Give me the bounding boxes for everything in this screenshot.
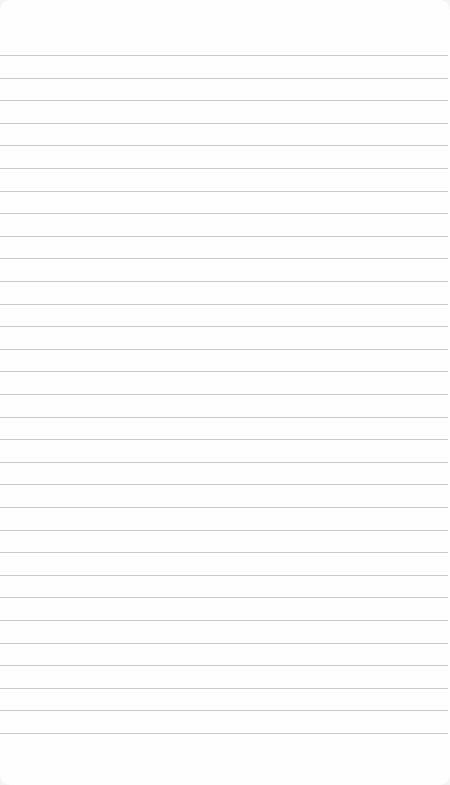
ruled-line bbox=[0, 733, 448, 734]
ruled-line bbox=[0, 643, 448, 644]
ruled-line bbox=[0, 575, 448, 576]
ruled-line bbox=[0, 100, 448, 101]
ruled-line bbox=[0, 688, 448, 689]
ruled-line bbox=[0, 552, 448, 553]
ruled-line bbox=[0, 417, 448, 418]
ruled-line bbox=[0, 394, 448, 395]
ruled-line bbox=[0, 304, 448, 305]
ruled-line bbox=[0, 462, 448, 463]
ruled-line bbox=[0, 145, 448, 146]
ruled-line bbox=[0, 326, 448, 327]
ruled-line bbox=[0, 620, 448, 621]
ruled-line bbox=[0, 258, 448, 259]
ruled-line bbox=[0, 123, 448, 124]
ruled-line bbox=[0, 55, 448, 56]
ruled-line bbox=[0, 349, 448, 350]
ruled-line bbox=[0, 484, 448, 485]
ruled-line bbox=[0, 78, 448, 79]
ruled-line bbox=[0, 191, 448, 192]
ruled-line bbox=[0, 213, 448, 214]
ruled-line bbox=[0, 710, 448, 711]
ruled-line bbox=[0, 597, 448, 598]
ruled-line bbox=[0, 507, 448, 508]
ruled-line bbox=[0, 371, 448, 372]
ruled-line bbox=[0, 439, 448, 440]
ruled-line bbox=[0, 530, 448, 531]
ruled-line bbox=[0, 236, 448, 237]
ruled-line bbox=[0, 665, 448, 666]
ruled-line bbox=[0, 281, 448, 282]
notepad-page[interactable] bbox=[0, 0, 450, 785]
ruled-line bbox=[0, 168, 448, 169]
